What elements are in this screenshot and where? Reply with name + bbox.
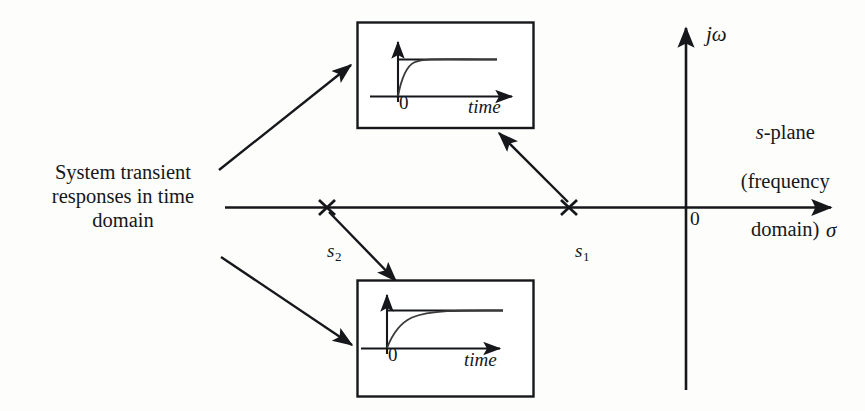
- s-plane-caption-domain: domain): [751, 218, 819, 240]
- pole-label-s2: s2: [308, 218, 341, 287]
- pole-label-s1-subscript: 1: [582, 249, 589, 264]
- inset-box-slow-response: [358, 281, 534, 397]
- s-plane-caption-frequency: (frequency: [741, 170, 830, 192]
- bottom-inset-origin-label: 0: [388, 344, 398, 366]
- jomega-axis-label: jω: [706, 22, 727, 47]
- connector-pole-s1-to-top-inset: [499, 133, 568, 202]
- pole-label-s2-subscript: 2: [334, 249, 341, 264]
- top-inset-origin-label: 0: [399, 92, 409, 114]
- left-caption-text: System transient responses in time domai…: [18, 160, 228, 233]
- top-inset-time-axis-label: time: [468, 96, 501, 118]
- sigma-axis-label: σ: [826, 218, 836, 243]
- s-plane-caption-plane: -plane: [764, 121, 815, 143]
- s-plane-origin-label: 0: [690, 207, 700, 230]
- connector-caption-to-top-inset: [219, 65, 351, 170]
- diagram-canvas: System transient responses in time domai…: [0, 0, 865, 411]
- inset-box-fast-response: [358, 23, 534, 129]
- pole-label-s1: s1: [556, 218, 589, 287]
- bottom-inset-time-axis-label: time: [464, 349, 497, 371]
- s-plane-caption-s: s: [756, 121, 764, 143]
